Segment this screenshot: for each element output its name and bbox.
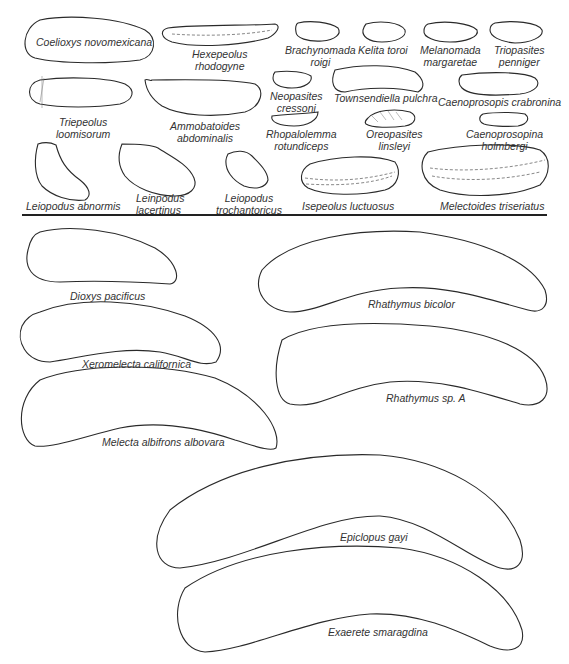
outline-oreopasites — [365, 110, 415, 127]
label-line: loomisorum — [56, 128, 110, 140]
label-xeromelecta: Xeromelecta californica — [82, 358, 191, 370]
label-isepeolus: Isepeolus luctuosus — [302, 200, 394, 212]
label-rhopalolemma: Rhopalolemma rotundiceps — [266, 128, 337, 152]
label-line: Caenoprosopina — [466, 128, 543, 140]
label-leinpodus-lacertinus: Leinpodus lacertinus — [136, 192, 184, 216]
panel-divider — [22, 214, 547, 216]
outline-caenoprosopis — [459, 73, 538, 96]
outline-rhopalolemma — [272, 112, 318, 126]
outline-neopasites — [273, 71, 311, 88]
label-oreopasites: Oreopasites linsleyi — [366, 128, 423, 152]
label-line: roigi — [285, 56, 356, 68]
label-ammobatoides: Ammobatoides abdominalis — [170, 120, 240, 144]
outline-triopasites — [490, 22, 542, 43]
outline-kelita — [363, 22, 405, 42]
label-triopasites: Triopasites penniger — [494, 44, 545, 68]
label-triepeolus: Triepeolus loomisorum — [56, 116, 110, 140]
label-line: Oreopasites — [366, 128, 423, 140]
label-line: rotundiceps — [266, 140, 337, 152]
label-line: rhodogyne — [192, 60, 247, 72]
label-melectoides: Melectoides triseriatus — [440, 200, 544, 212]
label-line: linsleyi — [366, 140, 423, 152]
outline-leinpodus-lacertinus — [119, 144, 195, 196]
label-brachynomada: Brachynomada roigi — [285, 44, 356, 68]
outline-ammobatoides — [145, 79, 261, 115]
label-townsendiella: Townsendiella pulchra — [334, 92, 438, 104]
label-line: Brachynomada — [285, 44, 356, 56]
outline-epiclopus — [157, 455, 523, 569]
label-coelioxys: Coelioxys novomexicana — [36, 36, 152, 48]
outline-melectoides — [422, 145, 548, 196]
label-leiopodus-abnormis: Leiopodus abnormis — [26, 200, 121, 212]
outline-triepeolus — [30, 78, 133, 107]
outline-leiopodus-abnormis — [35, 143, 89, 201]
label-line: Hexepeolus — [192, 48, 247, 60]
label-line: holmbergi — [466, 140, 543, 152]
label-dioxys: Dioxys pacificus — [70, 290, 145, 302]
label-line: Rhopalolemma — [266, 128, 337, 140]
label-line: Triopasites — [494, 44, 545, 56]
label-neopasites: Neopasites cressoni — [270, 90, 323, 114]
label-melecta: Melecta albifrons albovara — [102, 436, 225, 448]
label-rhathymus-spa: Rhathymus sp. A — [386, 392, 466, 404]
label-line: Ammobatoides — [170, 120, 240, 132]
label-line: Neopasites — [270, 90, 323, 102]
label-line: abdominalis — [170, 132, 240, 144]
label-exaerete: Exaerete smaragdina — [328, 626, 428, 638]
label-caenoprosopis: Caenoprosopis crabronina — [438, 96, 561, 108]
outline-xeromelecta — [20, 302, 220, 364]
label-kelita: Kelita toroi — [358, 44, 408, 56]
label-line: margaretae — [420, 56, 481, 68]
outline-leiopodus-trochantoricus — [226, 151, 268, 188]
outline-caenoprosopina — [480, 113, 528, 127]
label-hexepeolus: Hexepeolus rhodogyne — [192, 48, 247, 72]
label-line: penniger — [494, 56, 545, 68]
outline-isepeolus — [301, 157, 398, 194]
outline-melanomada — [424, 22, 477, 42]
label-caenoprosopina: Caenoprosopina holmbergi — [466, 128, 543, 152]
label-line: Leiopodus — [216, 192, 282, 204]
label-leiopodus-trochantoricus: Leiopodus trochantoricus — [216, 192, 282, 216]
label-melanomada: Melanomada margaretae — [420, 44, 481, 68]
outline-brachynomada — [296, 22, 340, 42]
label-line: Triepeolus — [56, 116, 110, 128]
label-line: Leinpodus — [136, 192, 184, 204]
label-line: Melanomada — [420, 44, 481, 56]
label-line: cressoni — [270, 102, 323, 114]
label-epiclopus: Epiclopus gayi — [340, 531, 408, 543]
outline-dioxys — [27, 229, 177, 284]
label-rhathymus-bicolor: Rhathymus bicolor — [368, 298, 455, 310]
outline-townsendiella — [333, 66, 423, 92]
